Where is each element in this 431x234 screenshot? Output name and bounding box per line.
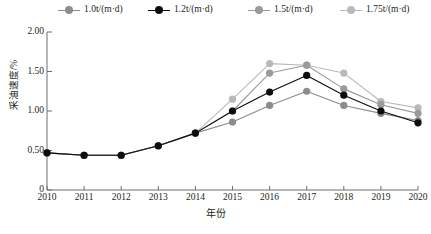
data-point [266,88,273,95]
x-tick-label: 2014 [186,193,205,203]
data-point [340,69,347,76]
data-point [229,107,236,114]
data-point [377,101,384,108]
x-tick-label: 2015 [223,193,242,203]
data-point [118,152,125,159]
y-tick-label: 0.50 [27,146,44,156]
data-point [43,149,50,156]
x-tick-label: 2010 [38,193,57,203]
legend-item-4[interactable]: 1.75t/(m·d) [340,0,410,20]
y-tick-label: 2.00 [27,27,44,37]
legend-label: 1.5t/(m·d) [274,5,313,15]
data-point [414,119,421,126]
y-tick-label: 1.50 [27,67,44,77]
x-tick-label: 2011 [75,193,94,203]
data-point [303,88,310,95]
data-point [340,85,347,92]
chart-legend: 1.0t/(m·d)1.2t/(m·d)1.5t/(m·d)1.75t/(m·d… [0,0,431,20]
x-tick-label: 2017 [297,193,316,203]
data-point [266,60,273,67]
legend-marker-icon [340,10,362,11]
data-point [340,92,347,99]
legend-label: 1.75t/(m·d) [366,5,410,15]
data-point [377,107,384,114]
data-point [266,102,273,109]
data-point [229,96,236,103]
data-point [266,69,273,76]
legend-item-2[interactable]: 1.2t/(m·d) [148,0,213,20]
plot-svg [47,32,418,190]
legend-label: 1.0t/(m·d) [84,5,123,15]
legend-marker-icon [248,10,270,11]
data-point [81,152,88,159]
x-tick-label: 2016 [260,193,279,203]
plot-area [47,32,418,190]
data-point [414,110,421,117]
legend-item-3[interactable]: 1.5t/(m·d) [248,0,313,20]
series-2 [43,72,421,159]
data-point [340,102,347,109]
oil-recovery-rate-line-chart: 1.0t/(m·d)1.2t/(m·d)1.5t/(m·d)1.75t/(m·d… [0,0,431,234]
data-point [303,72,310,79]
y-axis-title: 采油速度/% [9,49,19,121]
x-axis-title: 年份 [0,208,431,219]
x-tick-label: 2018 [334,193,353,203]
legend-marker-icon [148,10,170,11]
x-axis-tick-labels: 2010201120122013201420152016201720182019… [47,193,418,207]
x-tick-label: 2019 [371,193,390,203]
legend-marker-icon [58,10,80,11]
data-point [192,130,199,137]
data-point [303,62,310,69]
x-tick-label: 2020 [409,193,428,203]
x-tick-label: 2013 [149,193,168,203]
y-tick-label: 1.00 [27,106,44,116]
y-axis-tick-labels: 2.001.501.000.500 [0,32,44,190]
data-point [155,142,162,149]
x-tick-label: 2012 [112,193,131,203]
legend-item-1[interactable]: 1.0t/(m·d) [58,0,123,20]
legend-label: 1.2t/(m·d) [174,5,213,15]
data-point [229,118,236,125]
